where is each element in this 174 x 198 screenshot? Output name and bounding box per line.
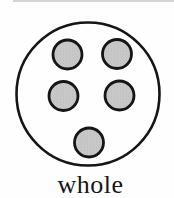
shaded-dot-2	[103, 40, 132, 69]
figure-caption: whole	[0, 172, 174, 198]
shaded-dot-4	[105, 81, 134, 110]
shaded-dot-1	[53, 40, 82, 69]
whole-circle-diagram	[0, 0, 174, 198]
shaded-dot-3	[49, 82, 78, 111]
fraction-whole-figure: whole	[0, 0, 174, 198]
shaded-dot-5	[75, 128, 104, 157]
